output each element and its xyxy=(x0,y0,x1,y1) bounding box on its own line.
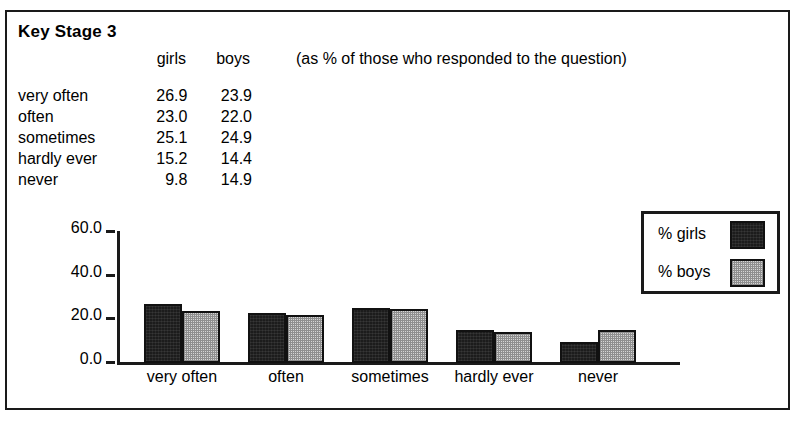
y-axis-tick-mark xyxy=(106,230,115,233)
y-axis-tick-mark xyxy=(106,361,115,364)
bar-girls xyxy=(456,330,494,363)
bar-group xyxy=(560,232,636,363)
y-axis-tick-label: 0.0 xyxy=(80,350,102,368)
bar-girls xyxy=(248,313,286,363)
bar-boys xyxy=(182,311,220,363)
legend-label-girls: % girls xyxy=(658,225,706,243)
bar-girls xyxy=(144,304,182,363)
x-axis-category-label: sometimes xyxy=(338,368,442,386)
y-axis-tick-mark xyxy=(106,317,115,320)
bar-boys xyxy=(286,315,324,363)
x-axis-category-label: never xyxy=(546,368,650,386)
bar-group xyxy=(144,232,220,363)
y-axis-tick-label: 20.0 xyxy=(71,306,102,324)
bar-chart: 60.040.020.00.0 very oftenoftensometimes… xyxy=(0,0,785,400)
plot-area xyxy=(117,232,680,363)
bar-girls xyxy=(352,308,390,363)
bar-boys xyxy=(494,332,532,363)
legend-swatch-boys-icon xyxy=(730,259,765,287)
x-axis-category-label: very often xyxy=(130,368,234,386)
y-axis-tick-mark xyxy=(106,274,115,277)
legend: % girls % boys xyxy=(641,211,780,294)
x-axis-category-label: often xyxy=(234,368,338,386)
y-axis-tick-label: 60.0 xyxy=(71,219,102,237)
bar-boys xyxy=(390,309,428,363)
legend-label-boys: % boys xyxy=(658,263,710,281)
bar-group xyxy=(352,232,428,363)
legend-swatch-girls-icon xyxy=(730,221,765,249)
legend-item-boys: % boys xyxy=(644,256,777,290)
bar-group xyxy=(248,232,324,363)
x-axis-category-label: hardly ever xyxy=(442,368,546,386)
legend-item-girls: % girls xyxy=(644,218,777,252)
bar-group xyxy=(456,232,532,363)
bar-boys xyxy=(598,330,636,363)
y-axis-tick-label: 40.0 xyxy=(71,263,102,281)
bar-girls xyxy=(560,342,598,363)
